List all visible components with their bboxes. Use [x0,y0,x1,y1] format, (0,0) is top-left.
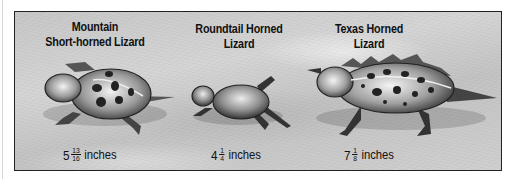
roundtail-horned-lizard-size: 4 1 4 inches [211,147,261,163]
mountain-short-horned-lizard-size: 5 13 16 inches [63,147,117,163]
size-unit: inches [84,148,117,162]
size-unit: inches [361,148,394,162]
mountain-short-horned-lizard-image [23,52,183,147]
size-whole: 5 [63,148,70,163]
size-fraction: 1 8 [352,147,358,163]
size-unit: inches [228,148,261,162]
size-fraction: 13 16 [71,147,80,163]
texas-horned-lizard-image [301,46,501,148]
size-fraction: 1 4 [219,147,225,163]
page-edge-line [2,0,3,179]
size-whole: 7 [344,148,351,163]
roundtail-horned-lizard-title: Roundtail Horned Lizard [179,22,299,52]
fraction-denominator: 8 [353,155,357,163]
fraction-denominator: 4 [220,155,224,163]
roundtail-horned-lizard-image [183,64,298,144]
texas-horned-lizard-size: 7 1 8 inches [344,147,394,163]
mountain-short-horned-lizard-title: Mountain Short-horned Lizard [43,20,146,50]
title-line-1: Mountain [43,20,146,35]
fraction-denominator: 16 [72,155,80,163]
title-line-2: Short-horned Lizard [43,35,146,50]
lizard-comparison-figure: Mountain Short-horned Lizard Roundtail H… [14,11,502,171]
size-whole: 4 [211,148,218,163]
